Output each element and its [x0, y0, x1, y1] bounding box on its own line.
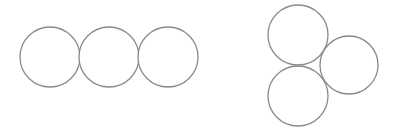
linear-chain-circle-2 — [79, 27, 139, 87]
triangular-cluster-circle-1 — [268, 5, 328, 65]
triangular-cluster-circle-3 — [268, 66, 328, 126]
linear-chain-circle-3 — [138, 27, 198, 87]
linear-chain-group — [20, 27, 198, 87]
triangular-cluster-group — [268, 5, 378, 126]
diagram-canvas — [0, 0, 396, 132]
linear-chain-circle-1 — [20, 27, 80, 87]
triangular-cluster-circle-2 — [320, 36, 378, 94]
